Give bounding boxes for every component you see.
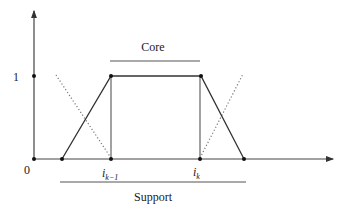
i-k-label: ik <box>193 165 200 181</box>
core-label: Core <box>141 40 164 54</box>
y-tick-dot-1 <box>32 74 36 78</box>
support-start-dot <box>60 157 64 161</box>
core-end-dot <box>199 74 203 78</box>
core-start-dot <box>109 74 113 78</box>
i-prev-label: ik−1 <box>102 166 118 182</box>
support-end-dot <box>242 157 246 161</box>
trapezoid-membership <box>62 76 244 159</box>
membership-diagram: 1 0 ik−1 ik Core Support <box>0 0 344 215</box>
i-prev-dot <box>109 157 113 161</box>
support-label: Support <box>134 190 173 204</box>
origin-dot <box>32 157 36 161</box>
origin-label: 0 <box>24 163 30 177</box>
prev-membership-dotted-line <box>56 75 111 158</box>
i-k-dot <box>198 157 202 161</box>
y-tick-label-1: 1 <box>13 70 19 84</box>
